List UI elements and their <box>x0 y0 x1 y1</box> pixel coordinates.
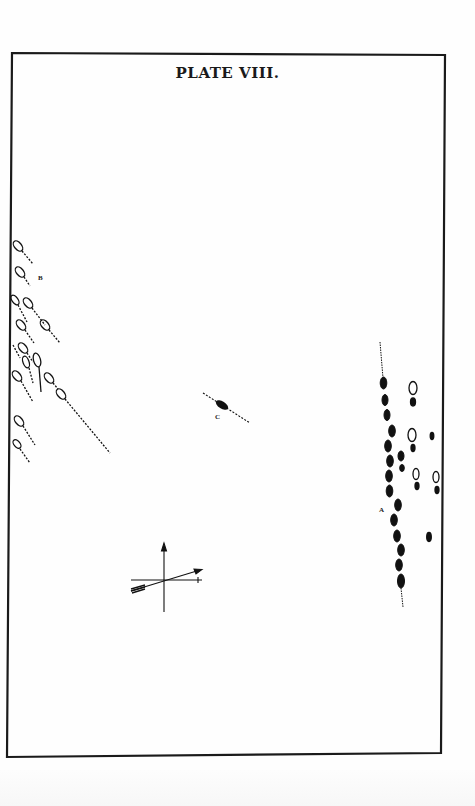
figure-a-label: A <box>379 506 384 514</box>
page-bottom-margin <box>0 770 475 806</box>
arrow-up-icon <box>162 543 167 551</box>
figure-b-label: B <box>38 274 43 282</box>
plate-page: PLATE VIII. B C A <box>0 0 475 806</box>
figure-a-open-ovals <box>408 382 439 542</box>
feathered-arrow-icon <box>131 585 145 593</box>
figure-c-spindle <box>203 393 250 423</box>
figure-a-column <box>380 342 405 607</box>
axes-figure <box>131 543 202 612</box>
arrow-right-icon <box>194 569 202 574</box>
figure-c-label: C <box>215 413 220 421</box>
plate-drawing <box>0 0 475 806</box>
figure-b-ovals <box>9 239 110 463</box>
plate-title: PLATE VIII. <box>0 64 455 82</box>
